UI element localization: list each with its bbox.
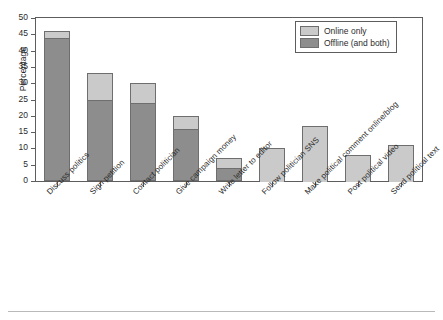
bar-segment-online — [45, 32, 69, 39]
y-axis-tick-mark — [31, 116, 35, 117]
bar-0 — [44, 31, 70, 181]
y-axis-tick-label: 10 — [19, 142, 28, 153]
legend-item-online-only: Online only — [300, 25, 390, 37]
bar-segment-online — [131, 84, 155, 104]
y-axis-tick-label: 50 — [19, 12, 28, 23]
y-axis-tick-label: 25 — [19, 94, 28, 105]
legend-label-offline-and-both: Offline (and both) — [324, 38, 390, 48]
truncated-caption-strip — [0, 0, 443, 7]
legend-label-online-only: Online only — [324, 26, 367, 36]
bar-segment-online — [217, 159, 241, 169]
legend-swatch-online-only — [300, 26, 319, 36]
y-axis-tick-label: 5 — [23, 159, 28, 170]
bar-segment-offline — [45, 37, 69, 180]
y-axis-tick-mark — [31, 83, 35, 84]
y-axis-tick-label: 20 — [19, 110, 28, 121]
chart-legend: Online only Offline (and both) — [295, 21, 397, 53]
y-axis-tick-label: 45 — [19, 28, 28, 39]
y-axis-tick-mark — [31, 181, 35, 182]
legend-swatch-offline-and-both — [300, 38, 319, 48]
chart-figure: Percentage 50454035302520151050 Discuss … — [0, 0, 443, 320]
y-axis-tick-mark — [31, 100, 35, 101]
y-axis-tick-mark — [31, 132, 35, 133]
footer-divider — [8, 311, 435, 312]
y-axis-tick-mark — [31, 34, 35, 35]
y-axis-tick-mark — [31, 18, 35, 19]
bar-2 — [130, 83, 156, 181]
y-axis-tick-label: 30 — [19, 77, 28, 88]
y-axis-tick-label: 15 — [19, 126, 28, 137]
bar-segment-online — [88, 74, 112, 100]
bar-segment-online — [174, 117, 198, 130]
bar-1 — [87, 73, 113, 181]
y-axis-tick-mark — [31, 148, 35, 149]
y-axis-tick-mark — [31, 165, 35, 166]
y-axis-tick-mark — [31, 51, 35, 52]
y-axis-tick-label: 0 — [23, 175, 28, 186]
y-axis-tick-label: 35 — [19, 61, 28, 72]
y-axis-tick-mark — [31, 67, 35, 68]
legend-item-offline-and-both: Offline (and both) — [300, 37, 390, 49]
y-axis-tick-label: 40 — [19, 45, 28, 56]
